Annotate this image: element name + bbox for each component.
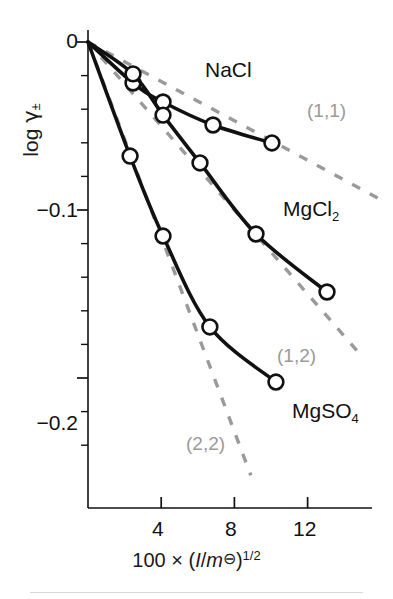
bottom-divider: [30, 592, 363, 593]
chart-canvas: [0, 0, 393, 599]
series-label-mgso4-subscript: 4: [352, 411, 359, 426]
x-tick-label-4: 4: [152, 517, 164, 541]
limiting-law-label-1-2: (1,2): [277, 345, 316, 367]
x-title-close-paren: ): [236, 549, 243, 571]
data-point-marker: [156, 108, 171, 123]
data-point-marker: [265, 136, 280, 151]
series-label-nacl-text: NaCl: [205, 58, 252, 81]
data-point-marker: [320, 285, 335, 300]
data-point-marker: [126, 67, 141, 82]
series-label-mgcl2-text: MgCl: [283, 197, 332, 220]
y-axis-title-prefix: log: [19, 123, 42, 157]
data-point-marker: [206, 118, 221, 133]
y-tick-label-minus-0-2: −0.2: [0, 411, 78, 435]
series-label-mgso4: MgSO4: [292, 399, 359, 426]
series-label-mgcl2-subscript: 2: [332, 209, 339, 224]
y-tick-label-minus-0-1: −0.1: [0, 198, 78, 222]
data-point-marker: [269, 375, 284, 390]
data-point-marker: [123, 149, 138, 164]
data-point-marker: [249, 227, 264, 242]
x-title-lead: 100 × (: [132, 549, 195, 571]
x-tick-label-8: 8: [225, 517, 237, 541]
series-label-nacl: NaCl: [205, 58, 252, 82]
series-label-mgcl2: MgCl2: [283, 197, 339, 224]
standard-state-icon: ⊖: [223, 550, 236, 567]
data-point-marker: [193, 156, 208, 171]
x-title-exponent: 1/2: [243, 548, 261, 563]
series-mgso4: [88, 42, 283, 389]
limiting-law-label-1-1: (1,1): [307, 100, 346, 122]
x-title-italic-m: m: [206, 549, 223, 571]
series-label-mgso4-text: MgSO: [292, 399, 352, 422]
y-tick-label-0: 0: [22, 29, 78, 53]
data-point-marker: [202, 320, 217, 335]
x-tick-label-12: 12: [293, 517, 316, 541]
gamma-symbol: γ: [19, 110, 43, 122]
data-point-marker: [156, 229, 171, 244]
plus-minus-subscript: ±: [28, 103, 43, 110]
figure-panel: 0 −0.1 −0.2 4 8 12 log γ± 100 × (I/m⊖)1/…: [0, 0, 393, 599]
x-axis-title: 100 × (I/m⊖)1/2: [0, 548, 393, 572]
y-axis-title: log γ±: [19, 75, 43, 185]
limiting-law-label-2-2: (2,2): [186, 433, 225, 455]
